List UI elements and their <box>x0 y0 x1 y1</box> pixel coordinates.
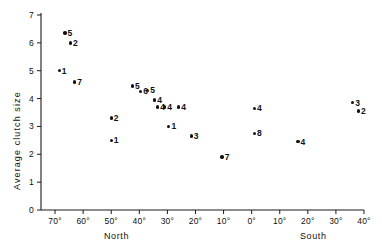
data-point-label: 4 <box>257 104 262 113</box>
x-tick-label-6: 10° <box>211 216 237 226</box>
axis-ticks-group <box>37 15 364 214</box>
x-tick-label-4: 30° <box>154 216 180 226</box>
x-tick-label-2: 50° <box>98 216 124 226</box>
data-point-label: 1 <box>171 122 176 131</box>
x-axis-title-north: North <box>104 231 129 241</box>
x-tick-label-0: 70° <box>42 216 68 226</box>
scatter-plot-figure: 01234567 70°60°50°40°30°20°10°0°10°20°30… <box>0 0 382 251</box>
data-point-label: 2 <box>361 107 366 116</box>
data-point-label: 7 <box>225 153 230 162</box>
y-tick-label-0: 0 <box>20 205 34 215</box>
data-point-marker <box>163 105 166 108</box>
data-point-marker <box>357 109 360 112</box>
x-tick-label-10: 30° <box>323 216 349 226</box>
data-point-marker <box>63 31 66 34</box>
y-tick-label-1: 1 <box>20 177 34 187</box>
data-point-label: 4 <box>181 103 186 112</box>
data-point-label: 8 <box>257 129 262 138</box>
data-point-marker <box>131 84 134 87</box>
data-point-marker <box>110 116 113 119</box>
x-axis-title-south: South <box>300 231 327 241</box>
y-tick-label-4: 4 <box>20 94 34 104</box>
x-tick-label-1: 60° <box>70 216 96 226</box>
data-point-label: 3 <box>194 132 199 141</box>
data-point-label: 5 <box>67 29 72 38</box>
data-point-label: 7 <box>77 78 82 87</box>
data-point-label: 5 <box>150 86 155 95</box>
data-point-marker <box>253 107 256 110</box>
data-point-label: 4 <box>167 103 172 112</box>
y-axis-title: Average clutch size <box>12 91 22 190</box>
data-point-label: 5 <box>135 82 140 91</box>
data-point-label: 4 <box>301 138 306 147</box>
x-tick-label-9: 20° <box>295 216 321 226</box>
y-tick-label-3: 3 <box>20 121 34 131</box>
x-tick-label-3: 40° <box>126 216 152 226</box>
plot-area: 01234567 70°60°50°40°30°20°10°0°10°20°30… <box>0 0 382 251</box>
axes-group <box>41 13 364 210</box>
data-point-label: 2 <box>73 39 78 48</box>
data-point-marker <box>156 105 159 108</box>
x-tick-label-11: 40° <box>351 216 377 226</box>
chart-axes-svg <box>0 0 382 251</box>
y-tick-label-7: 7 <box>20 10 34 20</box>
y-tick-label-2: 2 <box>20 149 34 159</box>
data-point-marker <box>73 80 76 83</box>
data-point-label: 3 <box>355 99 360 108</box>
data-point-marker <box>220 155 223 158</box>
data-point-marker <box>110 139 113 142</box>
data-point-label: 1 <box>114 136 119 145</box>
data-point-marker <box>177 105 180 108</box>
data-point-marker <box>190 134 193 137</box>
y-tick-label-5: 5 <box>20 66 34 76</box>
x-tick-label-8: 10° <box>267 216 293 226</box>
data-point-marker <box>69 41 72 44</box>
x-tick-label-5: 20° <box>182 216 208 226</box>
x-tick-label-7: 0° <box>239 216 265 226</box>
data-point-label: 1 <box>62 67 67 76</box>
data-point-label: 2 <box>114 114 119 123</box>
y-tick-label-6: 6 <box>20 38 34 48</box>
